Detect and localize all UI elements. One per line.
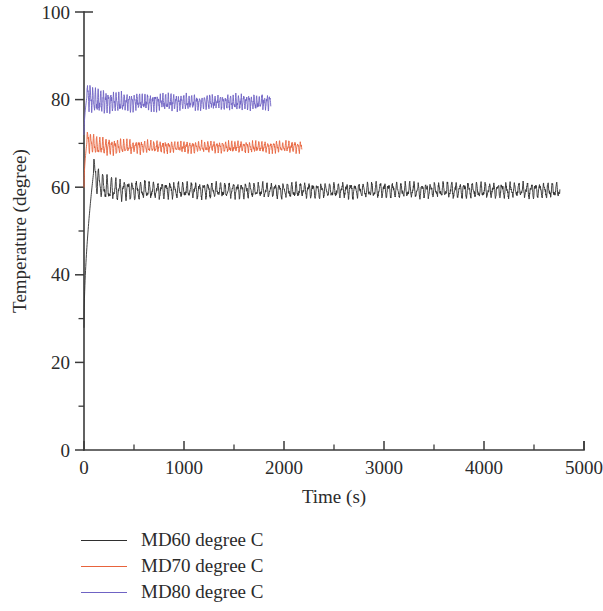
x-tick-label: 5000 <box>565 457 603 478</box>
x-tick-label: 2000 <box>265 457 303 478</box>
axes <box>84 12 584 450</box>
legend-color-swatch <box>81 540 127 541</box>
legend-item-label: MD80 degree C <box>141 581 263 603</box>
x-axis-title: Time (s) <box>302 486 366 508</box>
x-tick-label: 0 <box>79 457 89 478</box>
x-tick-label: 4000 <box>465 457 503 478</box>
y-tick-label: 100 <box>42 2 71 23</box>
y-tick-label: 40 <box>51 264 70 285</box>
legend-item[interactable]: MD80 degree C <box>78 579 498 605</box>
x-tick-label: 1000 <box>165 457 203 478</box>
axis-ticks <box>75 12 584 450</box>
legend-item[interactable]: MD70 degree C <box>78 553 498 579</box>
legend-item-label: MD70 degree C <box>141 555 263 577</box>
legend-item[interactable]: MD60 degree C <box>78 527 498 553</box>
legend-color-swatch <box>81 566 127 567</box>
series-line-md80 <box>84 85 271 134</box>
legend-item-label: MD60 degree C <box>141 529 263 551</box>
y-tick-label: 0 <box>61 440 71 461</box>
series-line-md70 <box>84 132 302 187</box>
x-tick-label: 3000 <box>365 457 403 478</box>
chart-legend: MD60 degree CMD70 degree CMD80 degree C <box>78 527 498 605</box>
legend-color-swatch <box>81 592 127 593</box>
axis-tick-labels: 020406080100010002000300040005000 <box>42 2 603 479</box>
y-tick-label: 80 <box>51 89 70 110</box>
y-axis-title: Temperature (degree) <box>9 149 31 313</box>
chart-figure: 020406080100010002000300040005000 Time (… <box>0 0 603 611</box>
y-tick-label: 60 <box>51 177 70 198</box>
y-tick-label: 20 <box>51 352 70 373</box>
data-series <box>84 85 560 327</box>
temperature-vs-time-line-chart: 020406080100010002000300040005000 Time (… <box>0 0 603 611</box>
series-line-md60 <box>84 159 560 327</box>
